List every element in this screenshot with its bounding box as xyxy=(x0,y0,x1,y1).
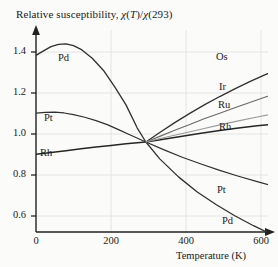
y-axis-ticks xyxy=(31,52,36,216)
y-tick-label-1.0: 1.0 xyxy=(2,127,26,138)
curve-label-pd-right: Pd xyxy=(222,216,233,227)
curve-label-pd-left: Pd xyxy=(58,53,69,64)
y-axis-arrowhead xyxy=(32,25,40,35)
curve-label-ru: Ru xyxy=(218,100,230,111)
curve-label-ir: Ir xyxy=(219,82,226,93)
y-tick-label-0.6: 0.6 xyxy=(2,209,26,220)
x-axis-title: Temperature (K) xyxy=(176,250,246,261)
plot-area xyxy=(0,0,278,267)
y-tick-label-1.2: 1.2 xyxy=(2,86,26,97)
x-tick-label-600: 600 xyxy=(246,235,276,246)
y-tick-label-0.8: 0.8 xyxy=(2,168,26,179)
curve-os xyxy=(146,67,278,142)
curve-label-rh-right: Rh xyxy=(219,122,231,133)
curve-label-pt-left: Pt xyxy=(44,113,53,124)
curve-pd xyxy=(36,44,278,241)
x-tick-label-400: 400 xyxy=(171,235,201,246)
x-tick-label-0: 0 xyxy=(26,235,46,246)
gridlines xyxy=(36,30,268,232)
data-curves xyxy=(36,44,278,241)
curve-label-pt-right: Pt xyxy=(217,185,226,196)
curve-label-os: Os xyxy=(216,52,228,63)
chart-figure: Relative susceptibility, χ(T)/χ(293) xyxy=(0,0,278,267)
x-tick-label-200: 200 xyxy=(96,235,126,246)
y-tick-label-1.4: 1.4 xyxy=(2,45,26,56)
curve-label-rh-left: Rh xyxy=(40,148,52,159)
axes xyxy=(36,32,268,232)
